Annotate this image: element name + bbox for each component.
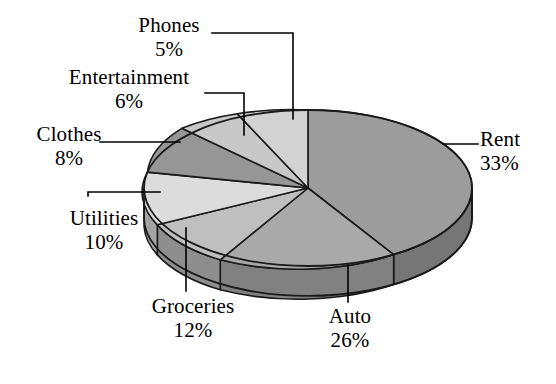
slice-label-clothes: Clothes 8% <box>6 123 132 170</box>
slice-label-groceries-name: Groceries <box>118 295 268 319</box>
slice-label-groceries-value: 12% <box>118 319 268 343</box>
slice-label-phones-value: 5% <box>104 38 234 62</box>
slice-label-utilities-name: Utilities <box>42 207 166 231</box>
slice-label-clothes-value: 8% <box>6 147 132 171</box>
slice-label-auto-name: Auto <box>300 305 400 329</box>
pie-chart-figure: Phones 5% Entertainment 6% Clothes 8% Ut… <box>0 0 556 384</box>
slice-label-utilities-value: 10% <box>42 231 166 255</box>
slice-label-phones: Phones 5% <box>104 14 234 61</box>
slice-label-groceries: Groceries 12% <box>118 295 268 342</box>
slice-label-clothes-name: Clothes <box>6 123 132 147</box>
slice-label-entertainment: Entertainment 6% <box>34 66 224 113</box>
slice-label-auto-value: 26% <box>300 329 400 353</box>
slice-label-rent-name: Rent <box>480 128 554 152</box>
slice-label-entertainment-value: 6% <box>34 90 224 114</box>
slice-label-entertainment-name: Entertainment <box>34 66 224 90</box>
slice-label-phones-name: Phones <box>104 14 234 38</box>
slice-label-utilities: Utilities 10% <box>42 207 166 254</box>
slice-label-rent-value: 33% <box>480 152 554 176</box>
slice-label-rent: Rent 33% <box>480 128 554 175</box>
slice-label-auto: Auto 26% <box>300 305 400 352</box>
pie-chart-graphic <box>0 0 556 384</box>
